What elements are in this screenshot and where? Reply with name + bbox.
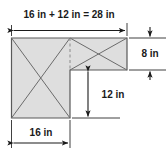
dimension-inner-height: 12 in [72,72,124,119]
label-inner-height: 12 in [102,89,125,100]
dimension-bottom-width: 16 in [12,120,71,148]
l-shape-body [12,38,128,118]
label-bottom-width: 16 in [30,127,53,138]
geometry-figure: 16 in + 12 in = 28 in 8 in 12 in 16 in [0,0,168,151]
l-shape-outline [12,38,128,118]
label-right-height: 8 in [141,48,158,59]
dimension-top-width: 16 in + 12 in = 28 in [12,9,128,36]
dimension-right-height: 8 in [129,27,166,80]
figure-canvas: 16 in + 12 in = 28 in 8 in 12 in 16 in [0,0,168,151]
label-top-width: 16 in + 12 in = 28 in [23,9,114,20]
